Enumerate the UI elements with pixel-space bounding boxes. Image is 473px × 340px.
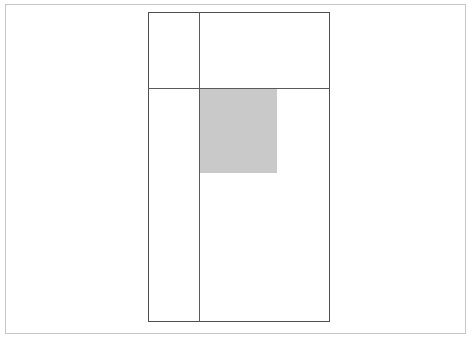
shaded-square-label: [200, 89, 201, 90]
divider-horizontal-line: [148, 88, 330, 89]
figure-canvas: [0, 0, 473, 340]
divider-vertical-line: [199, 12, 200, 322]
figure-rectangle-label: [149, 13, 150, 14]
outer-frame-label: [6, 5, 7, 6]
figure-caption: [0, 0, 1, 1]
shaded-square: [200, 89, 277, 173]
